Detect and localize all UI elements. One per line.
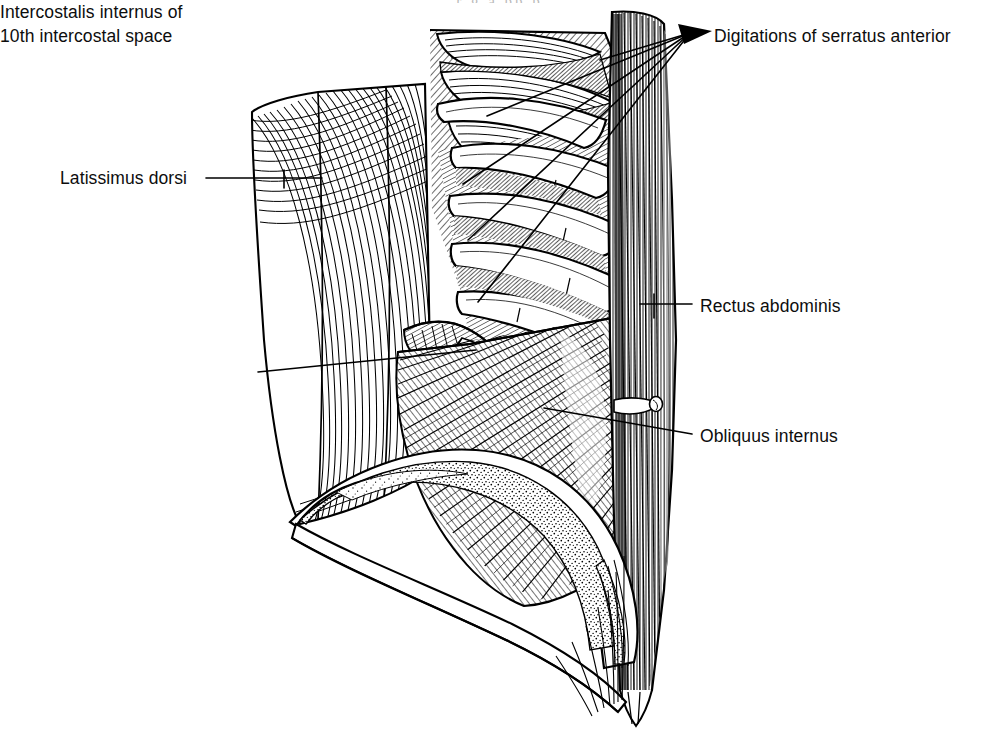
label-latissimus-dorsi: Latissimus dorsi: [60, 166, 187, 190]
label-obliquus-internus: Obliquus internus: [700, 424, 838, 448]
anatomical-figure: r g a pp p: [0, 0, 999, 739]
illustration-canvas: [0, 0, 999, 739]
label-digitations-of-serratus-anterior: Digitations of serratus anterior: [714, 24, 951, 48]
label-rectus-abdominis: Rectus abdominis: [700, 294, 841, 318]
tendinous-intersection: [614, 397, 663, 414]
